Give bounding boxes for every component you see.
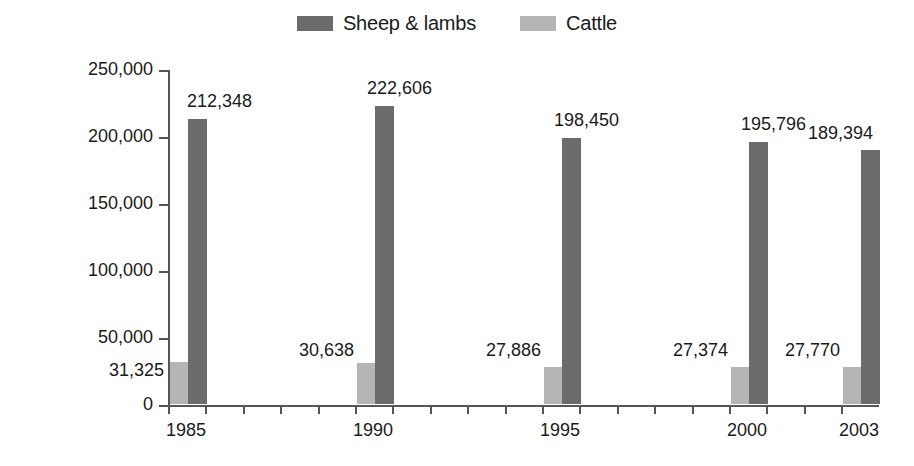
x-tick-1987 [243, 405, 245, 414]
value-label-cattle-2000: 27,374 [673, 340, 728, 360]
value-label-sheep-1985: 212,348 [187, 91, 252, 111]
x-tick-1997 [617, 405, 619, 414]
bar-cattle-2000[interactable] [731, 367, 749, 404]
x-tick-1998 [654, 405, 656, 414]
value-label-cattle-1990: 30,638 [299, 340, 354, 360]
legend-label-sheep: Sheep & lambs [343, 13, 476, 33]
plot-area: 0 50,000 100,000 150,000 200,000 250,000 [168, 70, 879, 405]
x-tick-2001 [766, 405, 768, 414]
bar-cattle-1985[interactable] [170, 362, 188, 404]
bar-sheep-1985[interactable] [188, 119, 207, 404]
x-axis-line [168, 405, 879, 407]
x-axis-label-1995: 1995 [540, 420, 580, 440]
y-tick-50000: 50,000 [159, 338, 168, 340]
y-tick-200000: 200,000 [159, 137, 168, 139]
x-tick-1985 [168, 405, 170, 414]
legend-entry-cattle: Cattle [520, 13, 617, 33]
x-tick-1996 [579, 405, 581, 414]
x-tick-2000 [729, 405, 731, 414]
y-tick-0: 0 [159, 405, 168, 407]
bar-sheep-1995[interactable] [562, 138, 581, 404]
bar-sheep-2000[interactable] [749, 142, 768, 404]
y-axis-line [168, 70, 170, 406]
bar-sheep-1990[interactable] [375, 106, 394, 404]
legend-swatch-cattle-icon [520, 16, 556, 31]
x-axis-label-2003: 2003 [839, 420, 879, 440]
y-tick-150000: 150,000 [159, 204, 168, 206]
x-tick-1991 [392, 405, 394, 414]
value-label-cattle-2003: 27,770 [785, 340, 840, 360]
y-tick-label-0: 0 [143, 394, 153, 414]
y-tick-label-150000: 150,000 [88, 193, 153, 213]
legend-entry-sheep: Sheep & lambs [297, 13, 476, 33]
value-label-sheep-2003: 189,394 [808, 123, 873, 143]
bar-cattle-1995[interactable] [544, 367, 562, 404]
x-tick-1990 [355, 405, 357, 414]
value-label-cattle-1995: 27,886 [486, 340, 541, 360]
x-tick-1994 [505, 405, 507, 414]
chart-legend: Sheep & lambs Cattle [0, 6, 914, 40]
y-tick-label-100000: 100,000 [88, 260, 153, 280]
x-tick-1993 [467, 405, 469, 414]
bar-sheep-2003[interactable] [861, 150, 880, 404]
x-axis-label-1985: 1985 [166, 420, 206, 440]
legend-label-cattle: Cattle [566, 13, 617, 33]
x-tick-2003 [841, 405, 843, 414]
legend-swatch-sheep-icon [297, 16, 333, 31]
value-label-sheep-2000: 195,796 [741, 114, 806, 134]
y-tick-250000: 250,000 [159, 70, 168, 72]
value-label-sheep-1990: 222,606 [367, 78, 432, 98]
x-tick-1988 [280, 405, 282, 414]
x-tick-1989 [318, 405, 320, 414]
x-axis-label-1990: 1990 [353, 420, 393, 440]
value-label-cattle-1985: 31,325 [109, 360, 164, 380]
bar-cattle-2003[interactable] [843, 367, 861, 404]
x-tick-1995 [542, 405, 544, 414]
x-tick-1999 [692, 405, 694, 414]
x-tick-1992 [430, 405, 432, 414]
bar-chart-figure: Sheep & lambs Cattle Total animals 0 50,… [0, 0, 914, 466]
x-axis-label-2000: 2000 [727, 420, 767, 440]
value-label-sheep-1995: 198,450 [554, 110, 619, 130]
y-tick-label-250000: 250,000 [88, 59, 153, 79]
y-tick-100000: 100,000 [159, 271, 168, 273]
x-tick-2002 [804, 405, 806, 414]
x-tick-1986 [205, 405, 207, 414]
bar-cattle-1990[interactable] [357, 363, 375, 404]
y-tick-label-50000: 50,000 [98, 327, 153, 347]
y-tick-label-200000: 200,000 [88, 126, 153, 146]
